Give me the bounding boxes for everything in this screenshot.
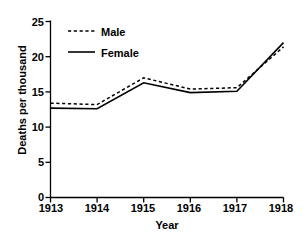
y-tick-marks <box>46 22 51 198</box>
chart-figure: Deaths per thousand 0 5 10 15 20 25 1913… <box>0 0 307 241</box>
x-tick-marks <box>51 198 284 203</box>
series-line-male <box>51 47 284 105</box>
plot-area <box>0 0 307 241</box>
